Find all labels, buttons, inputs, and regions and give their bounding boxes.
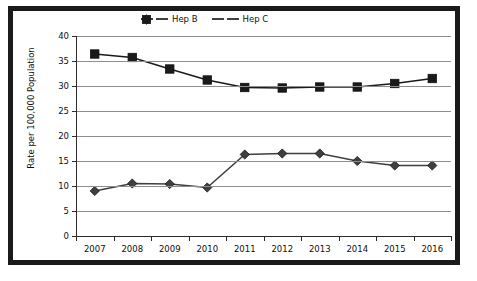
data-point-hep-b-2007[interactable] (90, 186, 99, 195)
y-axis-tick (72, 36, 77, 37)
legend-label-hep-c: Hep C (242, 14, 270, 24)
series-line-hep-c (95, 54, 433, 88)
gridline (76, 161, 451, 162)
y-axis-tick-label: 0 (29, 231, 69, 241)
legend-line-hep-b-right (156, 18, 168, 20)
gridline (76, 36, 451, 37)
gridline (76, 186, 451, 187)
x-axis-tick (301, 236, 302, 241)
data-point-hep-b-2016[interactable] (428, 161, 437, 170)
x-axis-tick (414, 236, 415, 241)
data-point-hep-b-2013[interactable] (315, 149, 324, 158)
data-point-hep-b-2015[interactable] (390, 161, 399, 170)
data-point-hep-c-2011[interactable] (241, 83, 249, 91)
plot-area (76, 36, 451, 236)
y-axis-tick (72, 161, 77, 162)
x-axis-tick (264, 236, 265, 241)
gridline (76, 136, 451, 137)
x-axis-tick (76, 236, 77, 241)
data-point-hep-c-2014[interactable] (353, 83, 361, 91)
x-axis-tick (376, 236, 377, 241)
y-axis-title: Rate per 100,000 Population (26, 28, 36, 188)
data-point-hep-b-2009[interactable] (165, 179, 174, 188)
data-point-hep-c-2013[interactable] (316, 83, 324, 91)
y-axis-tick (72, 61, 77, 62)
x-axis-tick (339, 236, 340, 241)
gridline (76, 86, 451, 87)
gridline (76, 211, 451, 212)
data-point-hep-c-2016[interactable] (428, 74, 436, 82)
x-axis-tick (114, 236, 115, 241)
gridline (76, 61, 451, 62)
chart-legend: Hep B Hep C (141, 14, 269, 24)
chart-frame: 0510152025303540 Rate per 100,000 Popula… (8, 6, 460, 265)
chart-canvas: 0510152025303540 Rate per 100,000 Popula… (13, 11, 455, 260)
data-point-hep-c-2009[interactable] (166, 65, 174, 73)
y-axis-tick (72, 136, 77, 137)
y-axis-tick (72, 86, 77, 87)
square-icon (141, 14, 152, 25)
legend-line-hep-c-right (227, 18, 239, 20)
legend-label-hep-b: Hep B (171, 14, 199, 24)
y-axis-tick (72, 186, 77, 187)
y-axis-tick (72, 111, 77, 112)
y-axis-tick (72, 211, 77, 212)
x-axis-tick (189, 236, 190, 241)
x-axis-tick-label: 2016 (409, 244, 455, 254)
y-axis-tick-label: 5 (29, 206, 69, 216)
legend-line-hep-c (212, 18, 224, 20)
legend-item-hep-c[interactable]: Hep C (212, 14, 270, 24)
x-axis-tick (226, 236, 227, 241)
data-point-hep-c-2007[interactable] (91, 50, 99, 58)
data-point-hep-b-2012[interactable] (278, 149, 287, 158)
data-point-hep-c-2010[interactable] (203, 76, 211, 84)
gridline (76, 111, 451, 112)
x-axis-tick (451, 236, 452, 241)
x-axis-tick (151, 236, 152, 241)
